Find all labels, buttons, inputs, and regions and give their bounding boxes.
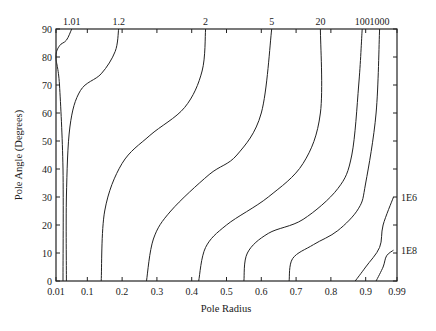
contour-label-top: 100 [355,16,370,27]
contour-label-top: 5 [269,16,274,27]
x-tick-label: 0.5 [220,286,233,297]
x-tick-label: 0.1 [81,286,94,297]
y-tick-label: 30 [42,192,52,203]
contour-labels-top: 1.011.225201001000 [63,16,390,27]
y-axis-title: Pole Angle (Degrees) [13,109,25,200]
contour-line-20 [199,29,322,281]
x-tick-label: 0.9 [359,286,372,297]
contour-line-5 [147,29,272,281]
x-tick-label: 0.4 [185,286,198,297]
contour-label-top: 1.2 [112,16,125,27]
y-tick-label: 80 [42,52,52,63]
contour-line-1e8 [376,250,393,281]
x-tick-label: 0.2 [116,286,129,297]
contour-line-1000 [289,29,380,281]
contour-line-2 [101,29,205,281]
contour-label-right: 1E6 [401,192,417,203]
y-tick-label: 10 [42,248,52,259]
x-tick-label: 0.01 [47,286,65,297]
contour-line-1.01 [56,29,72,281]
y-tick-label: 40 [42,164,52,175]
contour-line-100 [244,29,362,281]
contour-labels-right: 1E61E8 [401,192,417,256]
contour-line-1e6 [355,197,393,281]
contour-chart: 0102030405060708090 0.010.10.20.30.40.50… [0,0,436,331]
y-tick-label: 20 [42,220,52,231]
contour-label-top: 1000 [370,16,390,27]
x-tick-label: 0.99 [388,286,406,297]
y-tick-label: 50 [42,136,52,147]
y-tick-label: 90 [42,24,52,35]
y-axis-ticks: 0102030405060708090 [42,24,397,287]
y-tick-label: 60 [42,108,52,119]
contour-label-top: 20 [315,16,325,27]
x-tick-label: 0.6 [255,286,268,297]
x-tick-label: 0.7 [290,286,303,297]
contour-label-top: 1.01 [63,16,81,27]
contour-label-top: 2 [203,16,208,27]
contour-lines [56,29,394,281]
x-tick-label: 0.8 [325,286,338,297]
y-tick-label: 70 [42,80,52,91]
contour-line-1.2 [66,29,118,281]
x-axis-title: Pole Radius [201,303,251,314]
y-tick-label: 0 [47,276,52,287]
x-tick-label: 0.3 [151,286,164,297]
contour-label-right: 1E8 [401,245,417,256]
